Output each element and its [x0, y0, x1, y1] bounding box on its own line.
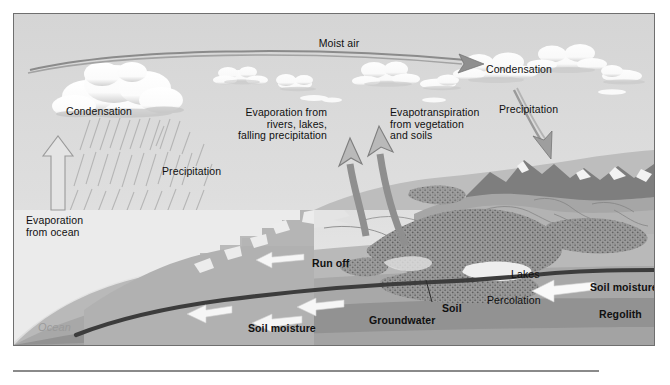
bottom-divider-rule: [13, 370, 599, 372]
label-condensation-right: Condensation: [486, 64, 552, 76]
label-run-off: Run off: [312, 258, 349, 270]
label-soil: Soil: [442, 303, 462, 315]
water-cycle-illustration: [14, 14, 654, 345]
label-evaporation-rivers: Evaporation from rivers, lakes, falling …: [207, 107, 327, 142]
label-precipitation-left: Precipitation: [162, 166, 221, 178]
label-percolation: Percolation: [487, 295, 541, 307]
label-evaporation-ocean: Evaporation from ocean: [26, 215, 83, 238]
label-soil-moisture-left: Soil moisture: [248, 323, 316, 335]
label-precipitation-right: Precipitation: [499, 104, 558, 116]
label-ocean: Ocean: [38, 322, 71, 334]
figure-frame: Moist air Condensation Precipitation Eva…: [13, 13, 655, 346]
label-condensation-left: Condensation: [66, 106, 132, 118]
water-cycle-figure: Moist air Condensation Precipitation Eva…: [0, 0, 670, 385]
label-soil-moisture-right: Soil moisture: [590, 282, 655, 294]
label-regolith: Regolith: [599, 309, 642, 321]
label-moist-air: Moist air: [294, 38, 384, 50]
label-lakes: Lakes: [511, 269, 540, 281]
label-groundwater: Groundwater: [369, 315, 435, 327]
